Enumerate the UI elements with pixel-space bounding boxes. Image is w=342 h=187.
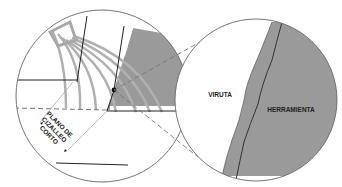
chip-formation-diagram: PLANO DE CIZALLEO CORTO VIRUTA HERRAMIEN…	[0, 0, 342, 187]
tool-label: HERRAMIENTA	[267, 106, 315, 113]
chip-label: VIRUTA	[208, 91, 232, 98]
shear-plane-label: PLANO DE CIZALLEO CORTO	[35, 110, 75, 150]
reference-dashed-line	[14, 108, 107, 110]
left-detail-circle: PLANO DE CIZALLEO CORTO	[14, 10, 200, 182]
right-magnified-circle: VIRUTA HERRAMIENTA	[170, 15, 340, 185]
